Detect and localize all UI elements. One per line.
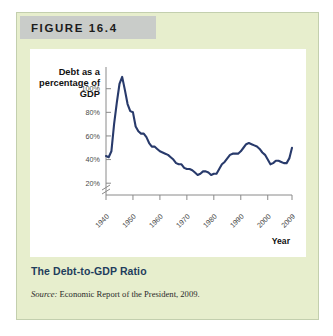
source-body: Economic Report of the President, 2009.: [57, 289, 199, 299]
x-axis-title: Year: [272, 236, 291, 246]
y-tick-label: 80%: [86, 108, 101, 117]
x-axis-ticks: 19401950196019701980199020002009: [93, 195, 297, 230]
x-tick-label: 1960: [147, 212, 165, 230]
y-tick-label: 60%: [86, 132, 101, 141]
debt-series-line: [106, 77, 292, 175]
x-tick-label: 1980: [201, 212, 219, 230]
debt-to-gdp-line-chart: Debt as apercentage ofGDP 20%40%60%80%10…: [30, 49, 306, 257]
figure-caption: The Debt-to-GDP Ratio: [31, 265, 147, 277]
y-tick-label: 100%: [82, 84, 101, 93]
y-axis-label-line: Debt as a: [59, 67, 101, 77]
source-prefix: Source:: [31, 289, 57, 299]
y-tick-label: 20%: [86, 179, 101, 188]
y-axis-label: Debt as apercentage ofGDP: [39, 67, 101, 99]
x-tick-label: 2009: [279, 212, 297, 230]
y-axis-ticks: 20%40%60%80%100%: [82, 84, 111, 187]
x-tick-label: 1940: [93, 212, 111, 230]
figure-header-bar: FIGURE 16.4: [20, 16, 156, 39]
figure-number-label: FIGURE 16.4: [31, 22, 118, 34]
x-tick-label: 1950: [120, 212, 138, 230]
chart-card: Debt as apercentage ofGDP 20%40%60%80%10…: [30, 49, 306, 257]
x-tick-label: 1990: [228, 212, 246, 230]
figure-panel: FIGURE 16.4 Debt as apercentage ofGDP 20…: [16, 12, 319, 320]
x-tick-label: 2000: [255, 212, 273, 230]
x-tick-label: 1970: [174, 212, 192, 230]
figure-source: Source: Economic Report of the President…: [31, 289, 200, 299]
y-tick-label: 40%: [86, 155, 101, 164]
